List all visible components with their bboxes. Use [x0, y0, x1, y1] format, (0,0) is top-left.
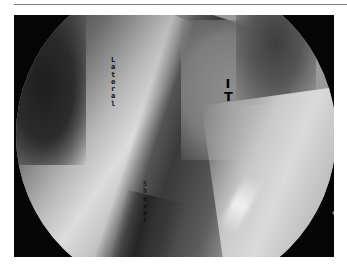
label-it-text: IT	[224, 77, 232, 103]
label-lateral: Lateral	[109, 57, 117, 108]
dark-shadow-region	[16, 15, 86, 165]
arthroscope-field-of-view	[16, 15, 334, 257]
bright-tissue-region	[201, 86, 334, 257]
label-shaver: Shaver	[141, 181, 149, 225]
page-header-rule	[14, 4, 347, 5]
arthroscopic-image: Lateral Shaver IT	[14, 15, 334, 257]
label-it: IT	[221, 77, 235, 103]
scope-orientation-notch-icon	[332, 203, 334, 223]
